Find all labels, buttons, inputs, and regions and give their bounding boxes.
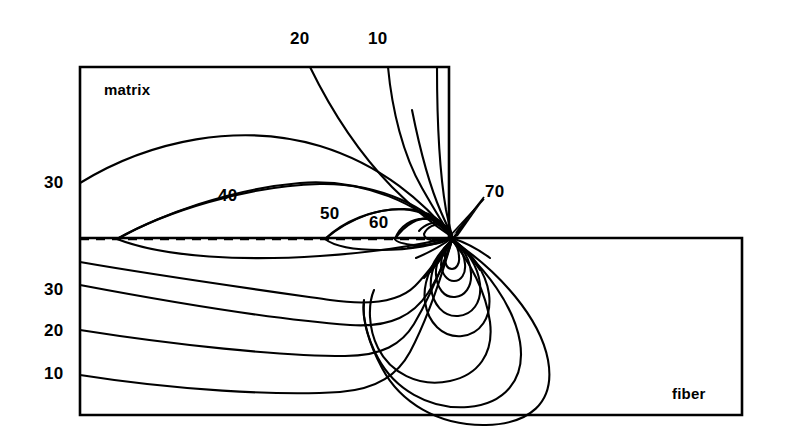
contour-curves (80, 67, 549, 425)
contour-lobe-2 (431, 240, 481, 316)
contour-label-top-20: 20 (290, 30, 309, 47)
region-label-fiber: fiber (672, 386, 706, 401)
leader-line-70-arrow-a (452, 197, 484, 236)
leader-lines-70 (448, 197, 484, 240)
contour-figure: 20 10 30 40 50 60 70 30 20 10 matrix fib… (0, 0, 785, 440)
contour-label-50: 50 (320, 205, 339, 222)
contour-label-70: 70 (485, 183, 504, 200)
contour-level-20-lower (80, 240, 521, 407)
contour-label-left-10: 10 (44, 365, 63, 382)
contour-plot-canvas (0, 0, 785, 440)
region-label-matrix: matrix (104, 82, 150, 97)
domain-outlines (80, 67, 742, 415)
leader-line-70-b (448, 199, 484, 238)
contour-label-top-10: 10 (368, 30, 387, 47)
contour-label-40: 40 (218, 187, 237, 204)
contour-label-left-30-upper: 30 (44, 174, 63, 191)
contour-label-left-30-lower: 30 (44, 281, 63, 298)
contour-label-left-20: 20 (44, 322, 63, 339)
contour-fan-a (80, 135, 452, 237)
contour-label-60: 60 (369, 214, 388, 231)
fiber-boundary (80, 238, 742, 415)
